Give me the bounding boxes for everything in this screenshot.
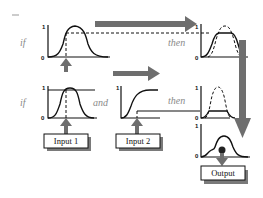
rule2-and-label: and: [93, 97, 109, 108]
rule2-consequent-plot: 1 0: [195, 85, 235, 121]
rule1-if-label: if: [20, 37, 27, 48]
input2-arrow: [131, 118, 143, 134]
axis-tick-0: 0: [41, 55, 45, 61]
rule1-then-label: then: [168, 37, 185, 48]
input2-box: Input 2: [116, 134, 163, 151]
axis-tick-1: 1: [195, 24, 199, 30]
output-arrow: [216, 153, 228, 166]
rule2-if-label: if: [20, 97, 27, 108]
fuzzy-inference-diagram: if 1 0 then 1 0 if 1 0: [0, 0, 263, 198]
aggregate-arrow-down-icon: [234, 40, 251, 138]
axis-tick-1: 1: [195, 85, 199, 91]
rule1-arrow-right-icon: [95, 16, 197, 32]
output-label: Output: [211, 168, 235, 178]
axis-tick-0: 0: [195, 55, 199, 61]
axis-tick-1: 1: [195, 123, 199, 129]
rule2-antecedent1-plot: 1 0: [41, 85, 97, 121]
input1-arrow: [60, 118, 72, 134]
axis-tick-0: 0: [195, 115, 199, 121]
output-box: Output: [201, 166, 248, 184]
axis-tick-0: 0: [195, 153, 199, 159]
input1-label: Input 1: [54, 136, 78, 146]
rule1-input-arrow: [60, 58, 72, 72]
rule2-then-label: then: [168, 95, 185, 106]
rule2-antecedent2-plot: 1: [116, 85, 200, 118]
axis-tick-0: 0: [41, 115, 45, 121]
centroid-marker: [219, 147, 226, 154]
axis-tick-1: 1: [116, 85, 120, 91]
input1-box: Input 1: [44, 134, 91, 151]
axis-tick-1: 1: [42, 85, 46, 91]
axis-tick-1: 1: [42, 24, 46, 30]
rule2-arrow-right-icon: [113, 66, 160, 81]
input2-label: Input 2: [126, 136, 150, 146]
